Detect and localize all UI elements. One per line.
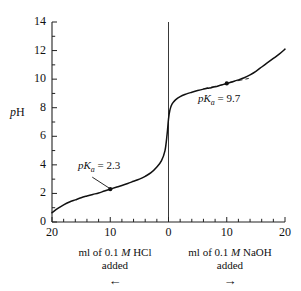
caption-right-line1: ml of 0.1 M NaOH <box>166 246 294 259</box>
pka-right-value: = 9.7 <box>218 92 241 104</box>
y-tick-label: 6 <box>18 129 46 141</box>
caption-left-prefix: ml of 0.1 <box>78 246 121 258</box>
y-tick-label: 10 <box>18 72 46 84</box>
y-tick-label: 8 <box>18 101 46 113</box>
x-tick-label: 10 <box>96 226 124 238</box>
caption-left-line2: added <box>55 259 175 272</box>
pka-left-subscript: a <box>91 165 95 174</box>
x-axis-caption-right: ml of 0.1 M NaOH added → <box>166 246 294 288</box>
pka-point-marker <box>225 81 229 85</box>
pka-annotation-left: pKa = 2.3 <box>78 160 120 174</box>
pka-leader-line <box>201 84 224 89</box>
pka-left-k: K <box>84 159 91 171</box>
x-tick-label: 20 <box>271 226 299 238</box>
pka-left-value: = 2.3 <box>98 159 121 171</box>
caption-left-line1: ml of 0.1 M HCl <box>55 246 175 259</box>
y-tick-label: 2 <box>18 186 46 198</box>
y-tick-label: 4 <box>18 158 46 170</box>
x-tick-label: 10 <box>213 226 241 238</box>
right-arrow-icon: → <box>166 273 294 288</box>
pka-right-k: K <box>204 92 211 104</box>
left-arrow-glyph: ← <box>109 273 122 288</box>
right-arrow-glyph: → <box>224 273 237 288</box>
y-tick-label: 14 <box>18 15 46 27</box>
caption-right-line2: added <box>166 259 294 272</box>
caption-left-suffix: HCl <box>130 246 151 258</box>
x-tick-label: 20 <box>38 226 66 238</box>
pka-leader-line <box>92 177 109 188</box>
caption-right-molarity: M <box>231 246 240 258</box>
x-axis-caption-left: ml of 0.1 M HCl added ← <box>55 246 175 288</box>
x-tick-label: 0 <box>155 226 183 238</box>
pka-right-subscript: a <box>211 98 215 107</box>
titration-curve-figure: pH 02468101214 201001020 pKa = 2.3 pKa =… <box>0 0 301 291</box>
caption-right-prefix: ml of 0.1 <box>188 246 231 258</box>
y-tick-label: 12 <box>18 44 46 56</box>
pka-annotation-right: pKa = 9.7 <box>198 93 240 107</box>
left-arrow-icon: ← <box>55 273 175 288</box>
caption-right-suffix: NaOH <box>240 246 271 258</box>
